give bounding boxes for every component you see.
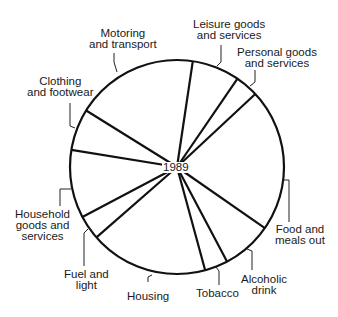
label-housing: Housing xyxy=(127,291,169,302)
leader-alcohol xyxy=(247,249,252,270)
label-fuel: Fuel and light xyxy=(64,269,109,291)
label-line: and services xyxy=(193,30,265,41)
label-line: Housing xyxy=(127,291,169,302)
slice-boundary xyxy=(177,61,193,167)
leader-personal xyxy=(250,70,255,86)
leader-housing xyxy=(148,275,152,282)
leader-motoring xyxy=(114,53,117,72)
leader-clothing xyxy=(70,103,75,128)
leader-fuel xyxy=(84,229,88,266)
label-household: Household goods and services xyxy=(15,209,70,242)
label-alcohol: Alcoholic drink xyxy=(241,274,287,296)
slice-boundary xyxy=(177,79,237,167)
label-food: Food and meals out xyxy=(275,224,325,246)
label-line: light xyxy=(64,280,109,291)
label-line: and transport xyxy=(89,39,157,50)
label-motoring: Motoring and transport xyxy=(89,28,157,50)
slice-boundary xyxy=(177,94,255,167)
label-personal: Personal goods and services xyxy=(237,47,317,69)
center-year-label: 1989 xyxy=(162,162,190,173)
leader-tobacco xyxy=(216,267,219,285)
label-line: and services xyxy=(237,58,317,69)
leader-household xyxy=(60,189,71,206)
label-leisure: Leisure goods and services xyxy=(193,19,265,41)
slice-boundary xyxy=(177,167,227,262)
label-tobacco: Tobacco xyxy=(196,288,239,299)
leader-food xyxy=(284,180,289,222)
label-line: services xyxy=(15,231,70,242)
label-line: meals out xyxy=(275,235,325,246)
label-line: drink xyxy=(241,285,287,296)
label-clothing: Clothing and footwear xyxy=(27,76,94,98)
leader-leisure xyxy=(217,45,221,66)
label-line: and footwear xyxy=(27,87,94,98)
label-line: Tobacco xyxy=(196,288,239,299)
